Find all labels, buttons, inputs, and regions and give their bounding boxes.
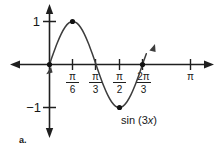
fraction-denominator: 2: [117, 84, 123, 95]
fraction-numerator: π: [69, 71, 76, 82]
curve-label-prefix: sin (3: [121, 114, 148, 126]
y-tick-label-negative-one: −1: [26, 100, 41, 115]
point-maximum: [70, 19, 75, 24]
sine-graph-svg: 1 −1 π 6 π 3 π: [0, 0, 221, 149]
curve-label-text: sin (3x): [121, 114, 157, 126]
y-tick-label-positive-one: 1: [33, 14, 40, 29]
point-origin: [47, 62, 52, 67]
point-zero-crossing: [140, 62, 145, 67]
point-minimum: [117, 105, 122, 110]
x-tick-label-pi: π: [187, 71, 194, 82]
fraction-numerator: π: [116, 71, 123, 82]
fraction-numerator: π: [92, 71, 99, 82]
curve-function-label: sin (3x): [121, 114, 157, 126]
fraction-denominator: 3: [93, 84, 99, 95]
figure-container: 1 −1 π 6 π 3 π: [0, 0, 221, 149]
fraction-denominator: 6: [70, 84, 76, 95]
fraction-denominator: 3: [141, 84, 147, 95]
curve-label-suffix: ): [153, 114, 157, 126]
item-letter-label: a.: [19, 135, 27, 145]
